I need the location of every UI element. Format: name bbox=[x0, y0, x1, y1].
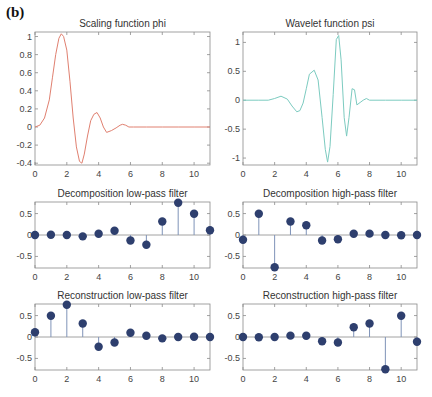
stem-marker bbox=[110, 227, 118, 235]
x-tick-label: 0 bbox=[240, 169, 245, 179]
y-tick-label: 0.2 bbox=[19, 104, 32, 114]
y-tick-label: -0.5 bbox=[16, 353, 32, 363]
stem-marker bbox=[350, 230, 358, 238]
x-tick-label: 6 bbox=[335, 272, 340, 282]
stem-marker bbox=[270, 333, 278, 341]
x-tick-label: 10 bbox=[189, 169, 199, 179]
stem-marker bbox=[31, 328, 39, 336]
stem-marker bbox=[79, 232, 87, 240]
axes-box bbox=[35, 32, 210, 165]
x-tick-label: 4 bbox=[96, 169, 101, 179]
x-tick-label: 8 bbox=[160, 169, 165, 179]
stem-marker bbox=[158, 334, 166, 342]
stem-marker bbox=[126, 236, 134, 244]
y-tick-label: 1 bbox=[27, 32, 32, 42]
x-tick-label: 8 bbox=[160, 374, 165, 384]
stem-marker bbox=[270, 263, 278, 271]
x-tick-label: 4 bbox=[304, 272, 309, 282]
stem-marker bbox=[142, 240, 150, 248]
stem-marker bbox=[79, 319, 87, 327]
stem-marker bbox=[381, 231, 389, 239]
wavelet-function-plot: Wavelet function psi0246810-1-0.500.51 bbox=[224, 18, 417, 179]
stem-marker bbox=[413, 338, 421, 346]
function-curve bbox=[35, 34, 210, 163]
x-tick-label: 4 bbox=[96, 374, 101, 384]
stem-marker bbox=[190, 333, 198, 341]
stem-marker bbox=[142, 332, 150, 340]
plot-title: Decomposition low-pass filter bbox=[57, 188, 188, 199]
plot-title: Reconstruction low-pass filter bbox=[57, 290, 188, 301]
y-tick-label: 0.8 bbox=[19, 50, 32, 60]
x-tick-label: 0 bbox=[240, 272, 245, 282]
x-tick-label: 4 bbox=[96, 272, 101, 282]
scaling-function-plot: Scaling function phi0246810-0.4-0.200.20… bbox=[16, 18, 210, 179]
stem-marker bbox=[255, 333, 263, 341]
y-tick-label: 0.6 bbox=[19, 68, 32, 78]
x-tick-label: 2 bbox=[64, 169, 69, 179]
y-tick-label: 0.5 bbox=[227, 209, 240, 219]
stem-marker bbox=[174, 199, 182, 207]
x-tick-label: 2 bbox=[64, 272, 69, 282]
x-tick-label: 8 bbox=[367, 374, 372, 384]
stem-marker bbox=[286, 331, 294, 339]
y-tick-label: 0.5 bbox=[19, 209, 32, 219]
stem-marker bbox=[381, 365, 389, 373]
stem-marker bbox=[239, 333, 247, 341]
y-tick-label: 0 bbox=[27, 122, 32, 132]
stem-marker bbox=[174, 333, 182, 341]
stem-marker bbox=[206, 333, 214, 341]
x-tick-label: 6 bbox=[128, 374, 133, 384]
stem-marker bbox=[350, 323, 358, 331]
stem-marker bbox=[31, 231, 39, 239]
x-tick-label: 10 bbox=[396, 169, 406, 179]
stem-marker bbox=[413, 231, 421, 239]
x-tick-label: 6 bbox=[335, 169, 340, 179]
stem-marker bbox=[110, 338, 118, 346]
x-tick-label: 4 bbox=[304, 374, 309, 384]
x-tick-label: 0 bbox=[32, 169, 37, 179]
stem-marker bbox=[318, 337, 326, 345]
x-tick-label: 6 bbox=[335, 374, 340, 384]
x-tick-label: 10 bbox=[189, 374, 199, 384]
x-tick-label: 0 bbox=[240, 374, 245, 384]
stem-marker bbox=[255, 210, 263, 218]
stem-marker bbox=[397, 231, 405, 239]
plot-title: Wavelet function psi bbox=[285, 18, 374, 29]
y-tick-label: 0.4 bbox=[19, 86, 32, 96]
wavelet-figure: Scaling function phi0246810-0.4-0.200.20… bbox=[0, 0, 432, 397]
y-tick-label: -0.5 bbox=[224, 353, 240, 363]
x-tick-label: 8 bbox=[160, 272, 165, 282]
y-tick-label: 0.5 bbox=[19, 311, 32, 321]
y-tick-label: 1 bbox=[235, 37, 240, 47]
x-tick-label: 2 bbox=[64, 374, 69, 384]
stem-marker bbox=[47, 312, 55, 320]
stem-marker bbox=[365, 229, 373, 237]
plot-title: Scaling function phi bbox=[79, 18, 166, 29]
x-tick-label: 0 bbox=[32, 374, 37, 384]
stem-marker bbox=[63, 301, 71, 309]
stem-marker bbox=[94, 342, 102, 350]
x-tick-label: 2 bbox=[272, 374, 277, 384]
x-tick-label: 6 bbox=[128, 169, 133, 179]
y-tick-label: -0.5 bbox=[16, 251, 32, 261]
x-tick-label: 4 bbox=[304, 169, 309, 179]
stem-marker bbox=[334, 338, 342, 346]
stem-marker bbox=[286, 217, 294, 225]
function-curve bbox=[243, 36, 417, 163]
y-tick-label: -0.4 bbox=[16, 158, 32, 168]
decomposition-highpass-plot: Decomposition high-pass filter0246810-0.… bbox=[224, 188, 421, 282]
stem-marker bbox=[365, 319, 373, 327]
x-tick-label: 2 bbox=[272, 169, 277, 179]
reconstruction-lowpass-plot: Reconstruction low-pass filter0246810-0.… bbox=[16, 290, 214, 384]
y-tick-label: 0 bbox=[235, 95, 240, 105]
x-tick-label: 10 bbox=[396, 374, 406, 384]
y-tick-label: -0.2 bbox=[16, 140, 32, 150]
x-tick-label: 6 bbox=[128, 272, 133, 282]
y-tick-label: -0.5 bbox=[224, 124, 240, 134]
y-tick-label: -1 bbox=[232, 153, 240, 163]
y-tick-label: 0.5 bbox=[227, 311, 240, 321]
stem-marker bbox=[63, 231, 71, 239]
plot-title: Reconstruction high-pass filter bbox=[263, 290, 398, 301]
x-tick-label: 10 bbox=[189, 272, 199, 282]
stem-marker bbox=[190, 210, 198, 218]
